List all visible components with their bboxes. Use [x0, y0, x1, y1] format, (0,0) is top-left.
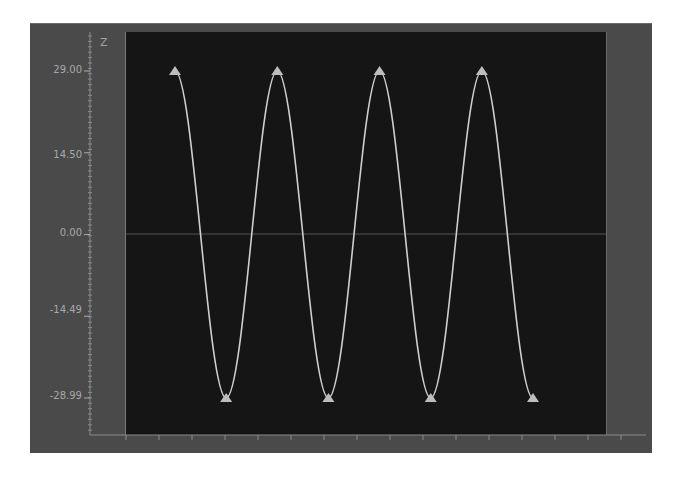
curve-editor-frame: Z 29.00 14.50 0.00 -14.49 -28.99	[30, 23, 652, 453]
keyframe-marker-icon[interactable]	[527, 393, 539, 402]
curve-chart	[30, 24, 652, 453]
keyframe-marker-icon[interactable]	[425, 393, 437, 402]
x-axis-ruler[interactable]	[90, 435, 646, 440]
keyframe-marker-icon[interactable]	[322, 393, 334, 402]
keyframe-marker-icon[interactable]	[476, 66, 488, 75]
keyframe-marker-icon[interactable]	[271, 66, 283, 75]
keyframe-marker-icon[interactable]	[220, 393, 232, 402]
keyframe-marker-icon[interactable]	[374, 66, 386, 75]
keyframe-marker-icon[interactable]	[169, 66, 181, 75]
y-axis-ruler[interactable]	[84, 32, 92, 435]
